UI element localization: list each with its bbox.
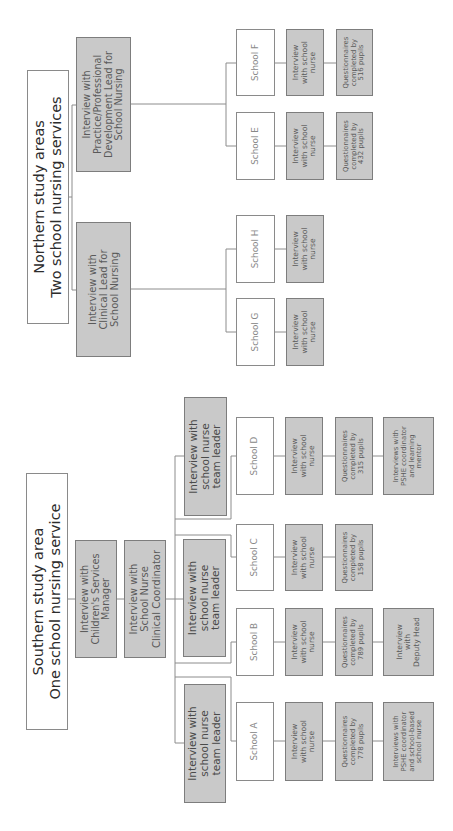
school-f-questionnaire-box: Questionnaires completed by 516 pupils <box>336 29 373 96</box>
school-d-questionnaire-box: Questionnaires completed by 315 pupils <box>335 417 373 495</box>
school-h-interview-box: Interview with school nurse <box>286 215 324 283</box>
school-a-questionnaire-box: Questionnaires completed by 778 pupils <box>335 702 373 781</box>
northern-title: Northern study areas Two school nursing … <box>27 70 69 324</box>
school-f-box: School F <box>236 29 275 96</box>
school-e-box: School E <box>236 112 275 180</box>
school-a-extra-interview-box: Interviews with PSHE coordinator and sch… <box>383 702 434 781</box>
school-b-box: School B <box>236 608 274 676</box>
team-leader-box-a: Interview with school nurse team leader <box>184 684 226 803</box>
school-h-box: School H <box>236 215 275 283</box>
southern-title: Southern study area One school nursing s… <box>26 473 68 730</box>
school-f-interview-box: Interview with school nurse <box>286 29 324 96</box>
school-e-interview-box: Interview with school nurse <box>286 112 324 180</box>
school-g-box: School G <box>236 298 275 366</box>
school-g-interview-box: Interview with school nurse <box>286 298 324 366</box>
clinical-lead-box: Interview with Clinical Lead for School … <box>76 222 131 357</box>
school-b-interview-box: Interview with school nurse <box>285 608 323 676</box>
team-leader-box-bc: Interview with school nurse team leader <box>183 539 226 657</box>
childrens-services-manager-box: Interview with Children's Services Manag… <box>75 540 117 658</box>
clinical-coordinator-box: Interview with School Nurse Clinical Coo… <box>124 540 166 658</box>
school-d-interview-box: Interview with school nurse <box>285 417 323 495</box>
study-design-diagram: Northern study areas Two school nursing … <box>0 0 453 831</box>
school-a-box: School A <box>236 702 274 781</box>
team-leader-box-d: Interview with school nurse team leader <box>184 397 227 516</box>
school-d-extra-interview-box: Interviews with PSHE coordinator and lea… <box>383 417 434 495</box>
school-b-questionnaire-box: Questionnaires completed by 789 pupils <box>335 608 373 676</box>
school-a-interview-box: Interview with school nurse <box>285 702 323 781</box>
school-c-questionnaire-box: Questionnaires completed by 158 pupils <box>335 524 373 591</box>
school-d-box: School D <box>236 417 274 495</box>
school-c-interview-box: Interview with school nurse <box>285 524 323 591</box>
practice-professional-lead-box: Interview with Practice/Professional Dev… <box>76 37 131 172</box>
school-e-questionnaire-box: Questionnaires completed by 432 pupils <box>336 112 373 180</box>
school-b-extra-interview-box: Interview with Deputy Head <box>383 608 434 676</box>
school-c-box: School C <box>236 524 274 591</box>
